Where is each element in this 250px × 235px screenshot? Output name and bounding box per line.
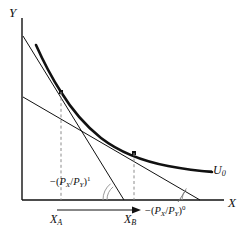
figure-canvas	[0, 0, 250, 235]
label-slope-new: −(PX/PY)1	[50, 176, 90, 189]
label-x-b-sub: B	[131, 218, 136, 227]
indifference-curve-figure: Y X XA XB U0 −(PX/PY)1 −(PX/PY)0	[0, 0, 250, 235]
label-x-b: XB	[124, 213, 136, 227]
label-utility-u0: U0	[213, 164, 226, 178]
label-u0-sub: 0	[222, 169, 226, 178]
slope-new-sup: 1	[87, 175, 90, 182]
label-x-a-sub: A	[57, 218, 62, 227]
angle-arc-new	[107, 187, 113, 200]
label-slope-initial: −(PX/PY)0	[145, 205, 185, 218]
label-x-a: XA	[50, 213, 62, 227]
slope-initial-lead: −(	[145, 205, 154, 216]
indifference-curve-u0	[36, 45, 212, 172]
slope-initial-sup: 0	[182, 204, 185, 211]
axis-label-y: Y	[9, 6, 16, 19]
label-u0-base: U	[213, 163, 222, 177]
slope-new-lead: −(	[50, 176, 59, 187]
axis-label-x: X	[228, 196, 236, 209]
